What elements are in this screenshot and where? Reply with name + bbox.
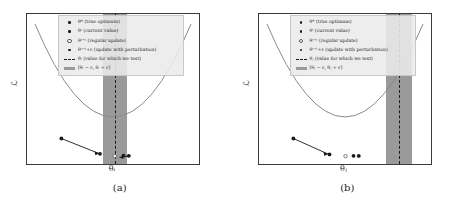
dashed-line-icon — [293, 59, 310, 60]
legend-label: θᵗ⁺¹+ε (update with perturbation) — [78, 48, 156, 53]
gray-patch-icon — [61, 67, 78, 70]
legend-label: θⱼ (value for which we test) — [310, 57, 373, 62]
legend-b: θ* (true optimum) θᵗ (current value) θᵗ⁺… — [290, 15, 416, 76]
legend-a: θ* (true optimum) θᵗ (current value) θᵗ⁺… — [58, 15, 184, 76]
subcaption-b: (b) — [232, 182, 463, 193]
legend-item: θᵗ⁺¹ (regular update) — [61, 36, 180, 45]
filled-dot-icon — [293, 30, 310, 33]
legend-label: θᵗ⁺¹ (regular update) — [310, 39, 358, 44]
legend-item: θᵗ⁺¹+ε (update with perturbation) — [293, 46, 412, 55]
legend-label: [θⱼ − ε, θⱼ + ε] — [310, 66, 343, 71]
filled-dot-icon — [61, 30, 78, 33]
hollow-dot-icon — [293, 39, 310, 44]
subcaption-a: (a) — [0, 182, 236, 193]
filled-dot-icon — [293, 21, 310, 24]
filled-dot-icon — [61, 21, 78, 24]
legend-item: [θᵢ − ε, θᵢ + ε] — [61, 64, 180, 73]
legend-item: θᵗ⁺¹+ε (update with perturbation) — [61, 46, 180, 55]
figure-two-panel: ℒ θᵢ — [0, 0, 463, 217]
legend-label: θ* (true optimum) — [310, 20, 352, 25]
legend-item: θ* (true optimum) — [293, 18, 412, 27]
panel-a: ℒ θᵢ — [0, 0, 232, 217]
legend-item: θᵗ⁺¹ (regular update) — [293, 36, 412, 45]
filled-dot-icon — [61, 49, 78, 52]
gray-patch-icon — [293, 67, 310, 70]
legend-label: θᵗ (current value) — [78, 29, 118, 34]
panel-b: ℒ θⱼ θ* (true optimum) — [232, 0, 463, 217]
legend-item: [θⱼ − ε, θⱼ + ε] — [293, 64, 412, 73]
legend-label: [θᵢ − ε, θᵢ + ε] — [78, 66, 110, 71]
legend-label: θ* (true optimum) — [78, 20, 120, 25]
filled-dot-icon — [293, 49, 310, 52]
legend-item: θᵢ (value for which we test) — [61, 55, 180, 64]
legend-item: θᵗ (current value) — [293, 27, 412, 36]
y-axis-label-b: ℒ — [238, 0, 254, 165]
legend-label: θᵗ⁺¹ (regular update) — [78, 39, 126, 44]
dashed-line-icon — [61, 59, 78, 60]
y-axis-label-a: ℒ — [6, 0, 22, 165]
hollow-dot-icon — [61, 39, 78, 44]
legend-item: θⱼ (value for which we test) — [293, 55, 412, 64]
x-axis-label-b: θⱼ — [258, 164, 430, 173]
legend-label: θᵗ (current value) — [310, 29, 350, 34]
legend-label: θᵗ⁺¹+ε (update with perturbation) — [310, 48, 388, 53]
legend-label: θᵢ (value for which we test) — [78, 57, 141, 62]
legend-item: θ* (true optimum) — [61, 18, 180, 27]
legend-item: θᵗ (current value) — [61, 27, 180, 36]
x-axis-label-a: θᵢ — [26, 164, 198, 173]
